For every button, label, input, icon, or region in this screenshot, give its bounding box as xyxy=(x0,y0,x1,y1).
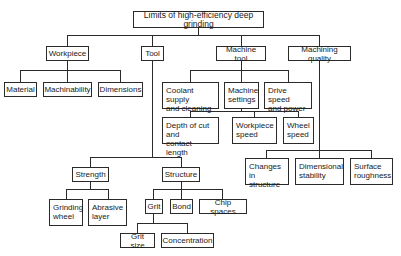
node-strength: Strength xyxy=(72,167,109,182)
node-structure: Structure xyxy=(162,167,200,182)
node-tool: Tool xyxy=(141,46,164,61)
node-machine-settings: Machine settings xyxy=(224,82,259,109)
node-root: Limits of high-efficiency deep grinding xyxy=(133,11,264,28)
node-depth-of-cut: Depth of cut and contact length xyxy=(162,117,219,144)
node-machining-quality: Machining quality xyxy=(288,46,351,61)
node-workpiece: Workpiece xyxy=(46,46,89,61)
node-dimensional-stability: Dimensional stability xyxy=(295,158,344,185)
node-machinability: Machinability xyxy=(43,82,92,97)
node-wheel-speed: Wheel speed xyxy=(283,117,314,144)
node-workpiece-speed: Workpiece speed xyxy=(232,117,277,144)
node-dimensions: Dimensions xyxy=(98,82,143,97)
tree-diagram: Limits of high-efficiency deep grinding … xyxy=(0,0,401,256)
node-grit: Grit xyxy=(145,199,163,214)
node-bond: Bond xyxy=(170,199,193,214)
node-material: Material xyxy=(4,82,37,97)
node-grit-size: Grit size xyxy=(120,233,155,248)
node-surface-roughness: Surface roughness xyxy=(350,158,393,185)
node-concentration: Concentration xyxy=(161,233,214,248)
node-changes-in-structure: Changes in structure xyxy=(245,158,289,185)
node-grinding-wheel: Grinding wheel xyxy=(49,199,83,226)
node-abrasive-layer: Abrasive layer xyxy=(88,199,127,226)
node-chip-spaces: Chip spaces xyxy=(199,199,247,214)
node-coolant-supply: Coolant supply and cleaning xyxy=(162,82,219,109)
node-drive-speed: Drive speed and power xyxy=(264,82,312,109)
node-machine-tool: Machine tool xyxy=(216,46,266,61)
